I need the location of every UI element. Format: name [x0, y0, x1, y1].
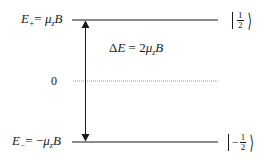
ket-bar-icon: [228, 134, 229, 151]
ket-numerator: 1: [240, 133, 247, 143]
energy-gap-label: ΔE = 2μzB: [109, 41, 163, 57]
ket-angle-bracket-icon: ⟩: [250, 133, 254, 152]
ket-denominator: 2: [241, 143, 246, 152]
ket-denominator: 2: [238, 21, 243, 30]
ket-sign: −: [232, 135, 239, 150]
arrowhead-up-icon: [82, 21, 90, 29]
energy-gap-double-arrow: [82, 21, 90, 142]
upper-energy-symbol: E: [21, 11, 29, 26]
lower-field: B: [53, 133, 61, 148]
upper-level-energy-label: E+= μzB: [21, 12, 63, 28]
upper-equals: =: [34, 11, 45, 26]
gap-equals: = 2: [125, 40, 145, 55]
ket-angle-bracket-icon: ⟩: [247, 11, 251, 30]
upper-field: B: [55, 11, 63, 26]
ket-fraction: 1 2: [240, 133, 247, 152]
lower-state-ket: − 1 2 ⟩: [228, 131, 256, 153]
lower-equals: = −: [25, 133, 43, 148]
ket-fraction: 1 2: [237, 11, 244, 30]
ket-numerator: 1: [237, 11, 244, 21]
upper-state-ket: 1 2 ⟩: [232, 9, 253, 31]
ket-bar-icon: [232, 12, 233, 29]
zeeman-energy-level-diagram: E+= μzB E−= −μzB 0 ΔE = 2μzB 1 2 ⟩ − 1 2…: [0, 0, 276, 161]
zero-energy-label: 0: [51, 74, 57, 89]
gap-field: B: [155, 40, 163, 55]
arrowhead-down-icon: [82, 134, 90, 142]
lower-level-energy-label: E−= −μzB: [12, 134, 61, 150]
lower-energy-symbol: E: [12, 133, 20, 148]
